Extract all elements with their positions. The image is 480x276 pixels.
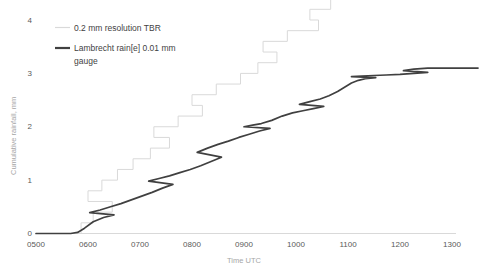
x-tick-label: 0500: [27, 240, 45, 249]
y-axis-title: Cumulative rainfall, mm: [9, 97, 18, 175]
x-tick-label: 0900: [235, 240, 253, 249]
x-tick-label: 0600: [79, 240, 97, 249]
y-tick-label: 4: [28, 16, 33, 25]
legend-label-tbr: 0.2 mm resolution TBR: [74, 23, 161, 33]
x-axis-title: Time UTC: [227, 256, 261, 265]
y-tick-label: 2: [28, 122, 33, 131]
x-tick-label: 0700: [131, 240, 149, 249]
x-tick-label: 1000: [287, 240, 305, 249]
chart-background: [0, 0, 480, 276]
x-tick-label: 1300: [443, 240, 461, 249]
legend-label-gauge-line1: Lambrecht rain[e] 0.01 mm: [74, 43, 176, 53]
y-tick-label: 3: [28, 69, 33, 78]
x-axis-tick-labels: 0500 0600 0700 0800 0900 1000 1100 1200 …: [27, 240, 461, 249]
x-tick-label: 0800: [183, 240, 201, 249]
y-tick-label: 0: [28, 229, 33, 238]
y-tick-label: 1: [28, 176, 33, 185]
x-tick-label: 1100: [339, 240, 357, 249]
x-tick-label: 1200: [391, 240, 409, 249]
chart-container: 4 3 2 1 0 Cumulative rainfall, mm 0500 0…: [0, 0, 480, 276]
legend-label-gauge-line2: gauge: [74, 56, 98, 66]
cumulative-rainfall-chart: 4 3 2 1 0 Cumulative rainfall, mm 0500 0…: [0, 0, 480, 276]
